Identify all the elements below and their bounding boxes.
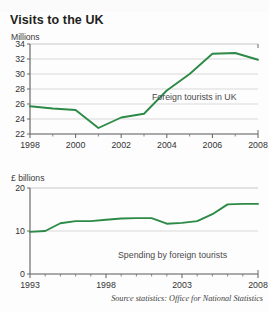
svg-text:32: 32 bbox=[15, 54, 25, 64]
top-chart-data-line bbox=[30, 53, 258, 128]
top-chart-x-tick-labels: 199820002002200420062008 bbox=[20, 140, 268, 150]
svg-text:2008: 2008 bbox=[248, 280, 268, 290]
figure-container: Visits to the UK Millions 22242628303234… bbox=[0, 0, 269, 312]
svg-text:2004: 2004 bbox=[157, 140, 177, 150]
svg-text:1993: 1993 bbox=[20, 280, 40, 290]
page-title: Visits to the UK bbox=[10, 13, 104, 27]
svg-text:2002: 2002 bbox=[111, 140, 131, 150]
svg-text:2000: 2000 bbox=[66, 140, 86, 150]
svg-text:30: 30 bbox=[15, 69, 25, 79]
top-chart-svg: 22242628303234 199820002002200420062008 … bbox=[0, 40, 269, 156]
svg-text:22: 22 bbox=[15, 129, 25, 139]
bottom-chart-x-tick-marks bbox=[30, 274, 258, 278]
bottom-chart-x-tick-labels: 1993199820032008 bbox=[20, 280, 268, 290]
svg-text:2003: 2003 bbox=[172, 280, 192, 290]
svg-text:1998: 1998 bbox=[20, 140, 40, 150]
top-margin-band bbox=[0, 0, 269, 12]
svg-text:20: 20 bbox=[15, 183, 25, 193]
top-chart-panel: 22242628303234 199820002002200420062008 … bbox=[0, 40, 269, 156]
bottom-chart-data-line bbox=[30, 204, 258, 232]
svg-text:2006: 2006 bbox=[203, 140, 223, 150]
bottom-chart-svg: 01020 1993199820032008 Spending by forei… bbox=[0, 182, 269, 294]
top-chart-x-tick-marks bbox=[30, 134, 258, 138]
top-chart-y-tick-labels: 22242628303234 bbox=[15, 40, 30, 139]
svg-text:2008: 2008 bbox=[248, 140, 268, 150]
top-chart-gridlines bbox=[30, 44, 258, 134]
bottom-chart-y-tick-labels: 01020 bbox=[15, 183, 30, 279]
bottom-chart-panel: 01020 1993199820032008 Spending by forei… bbox=[0, 182, 269, 294]
source-note: Source statistics: Office for National S… bbox=[111, 294, 263, 303]
top-chart-annotation: Foreign tourists in UK bbox=[152, 92, 237, 102]
svg-text:24: 24 bbox=[15, 114, 25, 124]
svg-text:28: 28 bbox=[15, 84, 25, 94]
svg-text:26: 26 bbox=[15, 99, 25, 109]
svg-text:10: 10 bbox=[15, 226, 25, 236]
bottom-chart-gridlines bbox=[30, 188, 258, 274]
svg-text:34: 34 bbox=[15, 40, 25, 49]
svg-text:1998: 1998 bbox=[96, 280, 116, 290]
svg-text:0: 0 bbox=[20, 269, 25, 279]
bottom-chart-annotation: Spending by foreign tourists bbox=[118, 250, 228, 260]
